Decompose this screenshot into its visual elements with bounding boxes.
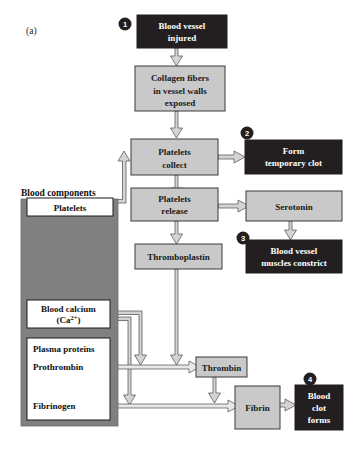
arrow-thromboplastin-to-thrombin (171, 269, 183, 365)
node-blood-clot-forms-line2: clot (312, 403, 326, 413)
node-blood-vessel-injured-line1: Blood vessel (159, 21, 206, 31)
node-fibrin[interactable]: Fibrin (235, 386, 280, 429)
node-thromboplastin[interactable]: Thromboplastin (135, 244, 222, 269)
node-collagen-fibers-line1: Collagen fibers (151, 73, 210, 83)
arrow-collect-to-temporary-clot (218, 151, 245, 163)
node-form-temporary-clot-line2: temporary clot (265, 158, 322, 168)
node-blood-clot-forms-line1: Blood (308, 391, 331, 401)
arrow-collagen-to-platelets-collect (171, 111, 183, 138)
node-platelets-component-label: Platelets (54, 203, 87, 213)
step-badge-2: 2 (241, 127, 254, 140)
step-badge-1: 1 (119, 18, 132, 31)
blood-clotting-flowchart: Blood components Platelets Blood calcium… (0, 0, 360, 451)
node-thrombin-label: Thrombin (202, 363, 241, 373)
arrow-fibrin-to-clot (279, 399, 296, 411)
node-platelets-component[interactable]: Platelets (27, 198, 113, 216)
node-thromboplastin-label: Thromboplastin (147, 252, 209, 262)
step-badge-3: 3 (237, 232, 250, 245)
node-blood-clot-forms[interactable]: Blood clot forms (295, 385, 343, 430)
node-plasma-proteins-title: Plasma proteins (33, 344, 95, 354)
node-serotonin[interactable]: Serotonin (246, 191, 342, 221)
node-platelets-collect[interactable]: Platelets collect (131, 139, 218, 175)
step-badge-4: 4 (304, 373, 317, 386)
node-blood-calcium-formula: (Ca2+) (57, 314, 81, 326)
arrow-release-to-thromboplastin (171, 221, 183, 244)
node-collagen-fibers[interactable]: Collagen fibers in vessel walls exposed (135, 66, 225, 111)
node-prothrombin-label: Prothrombin (33, 362, 83, 372)
node-collagen-fibers-line3: exposed (165, 98, 196, 108)
blood-components-title: Blood components (21, 188, 96, 198)
arrow-thrombin-to-fibrin (209, 377, 221, 403)
node-form-temporary-clot[interactable]: Form temporary clot (245, 140, 342, 174)
node-muscles-constrict-line1: Blood vessel (271, 246, 318, 256)
arrow-injured-to-collagen (171, 48, 183, 66)
arrow-release-to-serotonin (218, 200, 249, 212)
step-badge-1-number: 1 (123, 20, 127, 29)
arrow-serotonin-to-constrict (285, 221, 297, 240)
node-platelets-release-line2: release (161, 206, 187, 216)
node-blood-vessel-injured-line2: injured (168, 33, 196, 43)
step-badge-2-number: 2 (245, 129, 249, 138)
panel-label-a: (a) (26, 26, 37, 37)
node-muscles-constrict-line2: muscles constrict (261, 258, 327, 268)
node-collagen-fibers-line2: in vessel walls (153, 86, 207, 96)
node-blood-calcium-label: Blood calcium (41, 304, 96, 314)
node-thrombin[interactable]: Thrombin (196, 357, 247, 377)
step-badge-3-number: 3 (241, 234, 245, 243)
node-platelets-collect-line1: Platelets (158, 147, 191, 157)
node-blood-vessel-injured[interactable]: Blood vessel injured (137, 15, 227, 48)
node-platelets-release-line1: Platelets (158, 194, 191, 204)
node-form-temporary-clot-line1: Form (283, 146, 305, 156)
node-blood-calcium[interactable]: Blood calcium (Ca2+) (27, 300, 110, 328)
node-fibrinogen-label: Fibrinogen (33, 401, 76, 411)
node-plasma-proteins[interactable]: Plasma proteins Prothrombin Fibrinogen (27, 338, 110, 420)
node-platelets-release[interactable]: Platelets release (131, 188, 218, 221)
node-muscles-constrict[interactable]: Blood vessel muscles constrict (246, 240, 342, 273)
node-fibrin-label: Fibrin (245, 403, 270, 413)
node-blood-clot-forms-line3: forms (308, 415, 331, 425)
node-platelets-collect-line2: collect (162, 160, 186, 170)
arrow-platelets-component-to-collect (113, 151, 130, 203)
node-serotonin-label: Serotonin (275, 202, 312, 212)
